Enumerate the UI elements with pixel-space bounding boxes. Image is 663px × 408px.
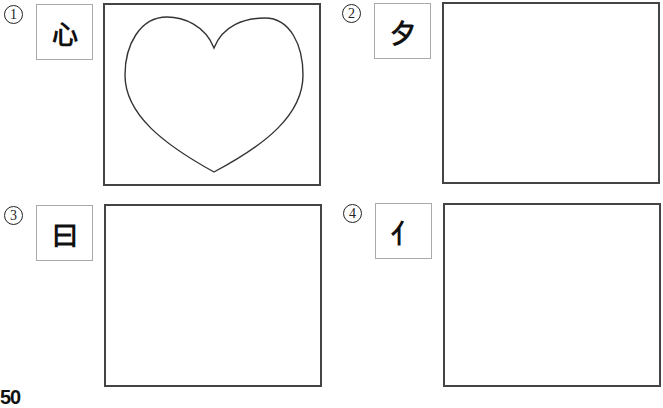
heart-outline-icon bbox=[105, 5, 319, 184]
exercise-number-1: 1 bbox=[4, 5, 23, 24]
page-number: 50 bbox=[0, 386, 20, 408]
drawing-area-2[interactable] bbox=[442, 2, 660, 184]
exercise-number-2: 2 bbox=[342, 4, 361, 23]
character-box-1: 心 bbox=[36, 4, 93, 60]
drawing-area-4[interactable] bbox=[443, 203, 661, 387]
drawing-area-3[interactable] bbox=[104, 204, 322, 387]
character-1: 心 bbox=[52, 14, 78, 51]
exercise-number-3: 3 bbox=[4, 206, 23, 225]
character-2: 夕 bbox=[390, 13, 416, 50]
character-box-2: 夕 bbox=[374, 3, 431, 59]
character-4: 亻 bbox=[391, 213, 417, 250]
exercise-number-4: 4 bbox=[343, 204, 362, 223]
character-box-3: 曰 bbox=[36, 205, 93, 261]
character-3: 曰 bbox=[52, 215, 78, 252]
character-box-4: 亻 bbox=[375, 203, 432, 259]
drawing-area-1[interactable] bbox=[103, 3, 321, 186]
